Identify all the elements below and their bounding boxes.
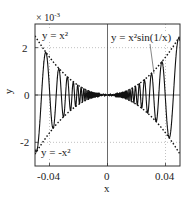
annotation-main-function: y = x²sin(1/x) <box>111 32 171 43</box>
x-tick-label-004: 0.04 <box>155 171 174 182</box>
x-axis-label: x <box>104 183 110 194</box>
annotation-x-squared: y = x² <box>42 30 68 41</box>
annotation-neg-x-squared: y = -x² <box>41 147 71 158</box>
y-tick-label-0: 0 <box>24 90 30 101</box>
y-multiplier: × 10-3 <box>36 12 60 23</box>
annotation-arrow <box>150 44 154 74</box>
x-tick-label-neg004: -0.04 <box>37 171 60 182</box>
y-tick-label-2: 2 <box>22 43 28 54</box>
x-tick-label-0: 0 <box>104 171 110 182</box>
y-tick-label-neg2: -2 <box>20 137 29 148</box>
y-axis-label: y <box>3 89 14 95</box>
